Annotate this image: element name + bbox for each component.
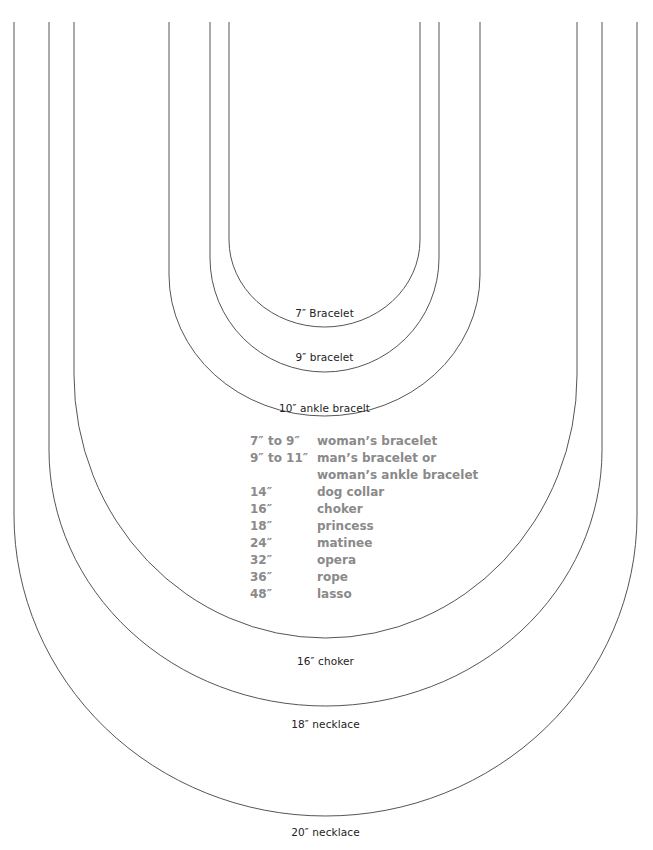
legend-description: woman’s bracelet [317, 433, 437, 450]
legend-description: man’s bracelet or [317, 450, 436, 467]
curve-20-necklace [14, 22, 637, 816]
legend-description: lasso [317, 586, 352, 603]
legend-description: princess [317, 518, 374, 535]
label-10-ankle-bracelet: 10″ ankle bracelt [279, 402, 370, 414]
legend-row: woman’s ankle bracelet [250, 467, 478, 484]
legend-length: 32″ [250, 552, 317, 569]
legend-length: 7″ to 9″ [250, 433, 317, 450]
legend-row: 14″ dog collar [250, 484, 478, 501]
legend-description: opera [317, 552, 356, 569]
curve-18-necklace [49, 22, 602, 706]
legend-row: 9″ to 11″ man’s bracelet or [250, 450, 478, 467]
legend-description: dog collar [317, 484, 384, 501]
label-20-necklace: 20″ necklace [291, 826, 359, 838]
curve-9-bracelet [210, 22, 439, 372]
legend-length: 18″ [250, 518, 317, 535]
label-7-bracelet: 7″ Bracelet [295, 307, 354, 319]
legend-description: rope [317, 569, 348, 586]
legend-row: 7″ to 9″ woman’s bracelet [250, 433, 478, 450]
legend-row: 32″ opera [250, 552, 478, 569]
legend-description: choker [317, 501, 363, 518]
legend-row: 18″ princess [250, 518, 478, 535]
legend-length [250, 467, 317, 484]
legend-length: 36″ [250, 569, 317, 586]
label-9-bracelet: 9″ bracelet [295, 351, 353, 363]
curve-7-bracelet [229, 22, 420, 327]
legend-length: 24″ [250, 535, 317, 552]
legend-length: 48″ [250, 586, 317, 603]
legend-length: 9″ to 11″ [250, 450, 317, 467]
legend-length: 14″ [250, 484, 317, 501]
legend-description: woman’s ankle bracelet [317, 467, 478, 484]
legend-row: 48″ lasso [250, 586, 478, 603]
label-16-choker: 16″ choker [297, 655, 354, 667]
legend-description: matinee [317, 535, 372, 552]
label-18-necklace: 18″ necklace [291, 718, 359, 730]
legend-length: 16″ [250, 501, 317, 518]
legend-row: 16″ choker [250, 501, 478, 518]
legend-row: 24″ matinee [250, 535, 478, 552]
legend-row: 36″ rope [250, 569, 478, 586]
length-legend: 7″ to 9″ woman’s bracelet 9″ to 11″ man’… [250, 433, 478, 603]
